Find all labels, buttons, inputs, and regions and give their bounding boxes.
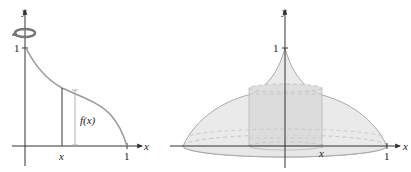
- left-y-one: 1: [14, 42, 20, 54]
- left-panel: y 1 f(x) x 1 x: [12, 6, 149, 166]
- fx-label: f(x): [80, 114, 96, 127]
- left-x-var: x: [58, 150, 64, 162]
- left-y-label: y: [21, 6, 27, 17]
- right-panel: y 1 x 1 x: [170, 6, 408, 168]
- height-bracket: [72, 90, 78, 145]
- left-x-label: x: [143, 140, 149, 152]
- right-y-one: 1: [273, 42, 279, 54]
- right-x-label: x: [402, 140, 408, 152]
- right-x-var: x: [318, 147, 324, 159]
- curve-f: [26, 48, 127, 146]
- right-x-one: 1: [384, 150, 390, 162]
- left-x-one: 1: [124, 150, 130, 162]
- figure-canvas: y 1 f(x) x 1 x: [0, 0, 411, 172]
- right-y-label: y: [281, 6, 287, 17]
- rotate-about-y-axis-icon: [12, 29, 35, 37]
